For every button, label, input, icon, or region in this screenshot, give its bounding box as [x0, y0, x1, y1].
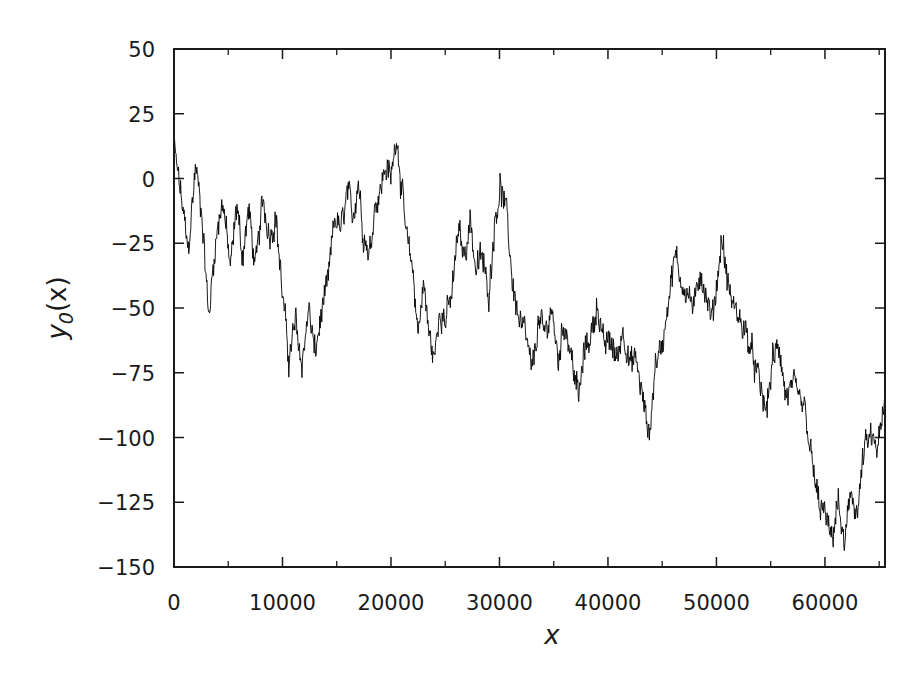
- plot-frame: [174, 49, 885, 567]
- x-axis-label: x: [543, 620, 560, 650]
- x-tick-label: 30000: [466, 591, 533, 615]
- y-tick-label: 25: [128, 103, 155, 127]
- x-tick-label: 40000: [575, 591, 642, 615]
- data-series-line: [174, 138, 885, 550]
- y-axis-label-arg: (x): [42, 276, 72, 312]
- svg-text:y0(x): y0(x): [42, 276, 77, 340]
- x-tick-label: 60000: [792, 591, 859, 615]
- y-axis-label-subscript: 0: [55, 312, 77, 324]
- y-tick-label: −25: [111, 232, 155, 256]
- y-tick-label: −125: [97, 491, 155, 515]
- y-axis-tick-labels: 50250−25−50−75−100−125−150: [97, 38, 155, 580]
- y-tick-label: −100: [97, 427, 155, 451]
- x-tick-label: 20000: [358, 591, 425, 615]
- x-axis-tick-labels: 0100002000030000400005000060000: [167, 591, 858, 615]
- y-tick-label: −50: [111, 297, 155, 321]
- plot-area: [174, 138, 885, 550]
- y-tick-label: −150: [97, 556, 155, 580]
- line-chart: 50250−25−50−75−100−125−150 0100002000030…: [0, 0, 914, 677]
- x-tick-label: 0: [167, 591, 180, 615]
- x-axis-ticks: [228, 49, 879, 567]
- y-axis-label-main: y: [42, 324, 72, 341]
- y-axis-label: y0(x): [42, 276, 77, 340]
- x-tick-label: 50000: [683, 591, 750, 615]
- y-tick-label: −75: [111, 362, 155, 386]
- x-tick-label: 10000: [249, 591, 316, 615]
- y-tick-label: 0: [142, 168, 155, 192]
- y-tick-label: 50: [128, 38, 155, 62]
- y-axis-ticks: [174, 114, 885, 503]
